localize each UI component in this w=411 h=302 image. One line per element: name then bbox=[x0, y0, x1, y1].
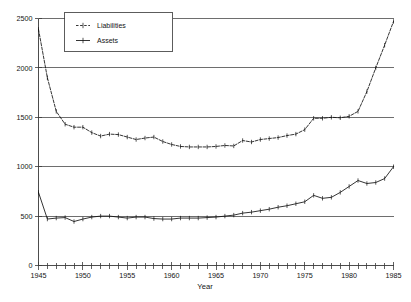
legend-border bbox=[65, 13, 173, 52]
y-tick-label-1000: 1000 bbox=[17, 162, 33, 171]
chart-container: 194519501955196019651970197519801985 050… bbox=[0, 0, 411, 302]
y-tick-label-2500: 2500 bbox=[17, 14, 33, 23]
x-tick-label-1980: 1980 bbox=[341, 271, 357, 280]
x-tick-label-1970: 1970 bbox=[252, 271, 268, 280]
legend-label-assets: Assets bbox=[97, 37, 119, 44]
y-tick-label-2000: 2000 bbox=[17, 64, 33, 73]
chart-legend: Liabilities Assets bbox=[65, 13, 173, 52]
y-tick-labels-group: 05001000150020002500 bbox=[17, 14, 33, 270]
x-tick-label-1985: 1985 bbox=[386, 271, 402, 280]
series-assets bbox=[39, 165, 394, 224]
x-tick-label-1955: 1955 bbox=[119, 271, 135, 280]
y-tick-label-0: 0 bbox=[29, 261, 33, 270]
line-chart: 194519501955196019651970197519801985 050… bbox=[0, 0, 411, 302]
x-tick-label-1975: 1975 bbox=[297, 271, 313, 280]
x-axis-title: Year bbox=[197, 282, 213, 291]
y-tick-label-1500: 1500 bbox=[17, 113, 33, 122]
x-tick-label-1945: 1945 bbox=[31, 271, 47, 280]
x-tickmarks-group bbox=[39, 262, 394, 270]
legend-label-liabilities: Liabilities bbox=[97, 22, 126, 29]
x-tick-label-1965: 1965 bbox=[208, 271, 224, 280]
x-tick-label-1960: 1960 bbox=[164, 271, 180, 280]
axes-group bbox=[39, 19, 394, 266]
y-tick-label-500: 500 bbox=[21, 212, 33, 221]
x-tick-labels-group: 194519501955196019651970197519801985 bbox=[31, 271, 402, 280]
x-tick-label-1950: 1950 bbox=[75, 271, 91, 280]
